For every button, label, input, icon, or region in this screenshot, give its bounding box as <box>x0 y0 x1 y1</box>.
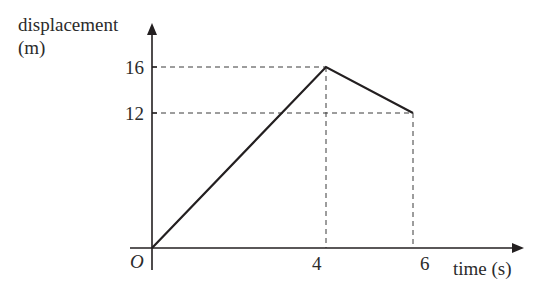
x-tick-label-6: 6 <box>420 254 430 273</box>
y-axis-arrow-icon <box>147 23 157 35</box>
y-axis-label-line2: (m) <box>18 38 45 57</box>
y-axis-label-line1: displacement <box>18 15 118 34</box>
displacement-line <box>152 67 413 248</box>
y-tick-label-12: 12 <box>125 104 144 123</box>
x-tick-label-4: 4 <box>312 254 322 273</box>
y-tick-label-16: 16 <box>125 58 144 77</box>
x-axis-label: time (s) <box>453 259 512 278</box>
displacement-time-graph <box>0 0 538 281</box>
origin-label: O <box>130 252 144 271</box>
x-axis-arrow-icon <box>512 243 524 253</box>
